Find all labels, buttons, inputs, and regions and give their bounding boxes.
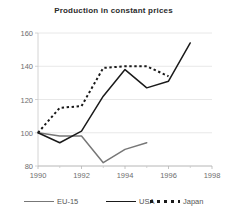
x-axis-tick-label: 1992 [67, 171, 97, 180]
legend-label: EU-15 [57, 197, 78, 206]
legend-item-eu-15[interactable]: EU-15 [24, 197, 78, 206]
line-black-dotted-swatch [150, 200, 180, 202]
plot-area [0, 0, 227, 223]
line-gray-solid-swatch [24, 201, 54, 202]
x-axis-tick-label: 1994 [110, 171, 140, 180]
gridlines [38, 33, 212, 166]
series-line-eu-15 [38, 133, 147, 163]
legend-item-japan[interactable]: Japan [150, 197, 203, 206]
line-black-solid-swatch [106, 201, 136, 202]
y-axis-tick-label: 80 [11, 162, 33, 171]
y-axis-tick-label: 140 [11, 62, 33, 71]
chart-container: Production in constant prices 1601401201… [0, 0, 227, 223]
legend-item-usa[interactable]: USA [106, 197, 154, 206]
y-axis-tick-label: 100 [11, 128, 33, 137]
x-axis-tick-label: 1990 [23, 171, 53, 180]
series-line-usa [38, 43, 190, 143]
y-axis-tick-label: 160 [11, 29, 33, 38]
x-axis-tick-label: 1998 [197, 171, 227, 180]
legend-label: Japan [183, 197, 203, 206]
chart-legend: EU-15USAJapan [0, 197, 227, 219]
x-axis-tick-label: 1996 [154, 171, 184, 180]
data-series-group [38, 43, 190, 163]
y-axis-tick-label: 120 [11, 95, 33, 104]
axis-ticks [35, 33, 212, 169]
